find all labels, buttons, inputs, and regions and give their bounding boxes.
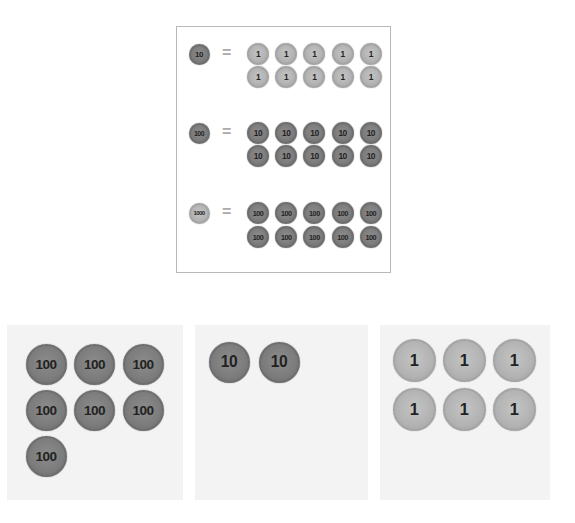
coin-1: 1 (332, 66, 354, 88)
coin-10: 10 (360, 145, 382, 167)
equals-sign: = (222, 203, 231, 221)
coin-10: 10 (360, 122, 382, 144)
coin-100: 100 (26, 436, 67, 477)
coin-1: 1 (393, 388, 436, 431)
coin-10: 10 (332, 145, 354, 167)
coin-10: 10 (247, 122, 269, 144)
coin-10: 10 (189, 44, 210, 65)
coin-100: 100 (26, 390, 67, 431)
coin-1: 1 (493, 339, 536, 382)
coin-100: 100 (74, 344, 115, 385)
equals-sign: = (222, 123, 231, 141)
coin-100: 100 (123, 390, 164, 431)
coin-100: 100 (189, 123, 210, 144)
coin-100: 100 (332, 202, 354, 224)
coin-1000: 1000 (189, 203, 210, 224)
coin-1: 1 (393, 339, 436, 382)
coin-1: 1 (493, 388, 536, 431)
coin-1: 1 (360, 43, 382, 65)
coin-100: 100 (360, 202, 382, 224)
coin-100: 100 (247, 226, 269, 248)
coin-100: 100 (74, 390, 115, 431)
coin-10: 10 (259, 342, 300, 383)
coin-1: 1 (247, 43, 269, 65)
coin-100: 100 (26, 344, 67, 385)
coin-10: 10 (332, 122, 354, 144)
coin-1: 1 (247, 66, 269, 88)
coin-1: 1 (443, 388, 486, 431)
coin-10: 10 (209, 342, 250, 383)
coin-100: 100 (360, 226, 382, 248)
coin-10: 10 (247, 145, 269, 167)
equals-sign: = (222, 44, 231, 62)
coin-1: 1 (443, 339, 486, 382)
coin-1: 1 (360, 66, 382, 88)
coin-100: 100 (247, 202, 269, 224)
coin-100: 100 (123, 344, 164, 385)
coin-100: 100 (332, 226, 354, 248)
coin-1: 1 (332, 43, 354, 65)
